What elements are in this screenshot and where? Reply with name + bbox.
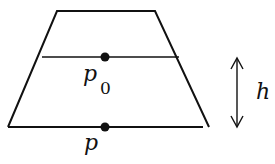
label-h: h xyxy=(256,81,270,103)
diagram-canvas: p 0 p h xyxy=(0,0,275,164)
label-p: p xyxy=(84,132,98,154)
label-p0-subscript: 0 xyxy=(100,80,111,97)
point-p0-dot xyxy=(101,53,110,62)
trapezoid-outline xyxy=(8,11,209,127)
label-p0: p xyxy=(83,63,97,85)
diagram-svg xyxy=(0,0,275,164)
point-p-dot xyxy=(101,123,110,132)
